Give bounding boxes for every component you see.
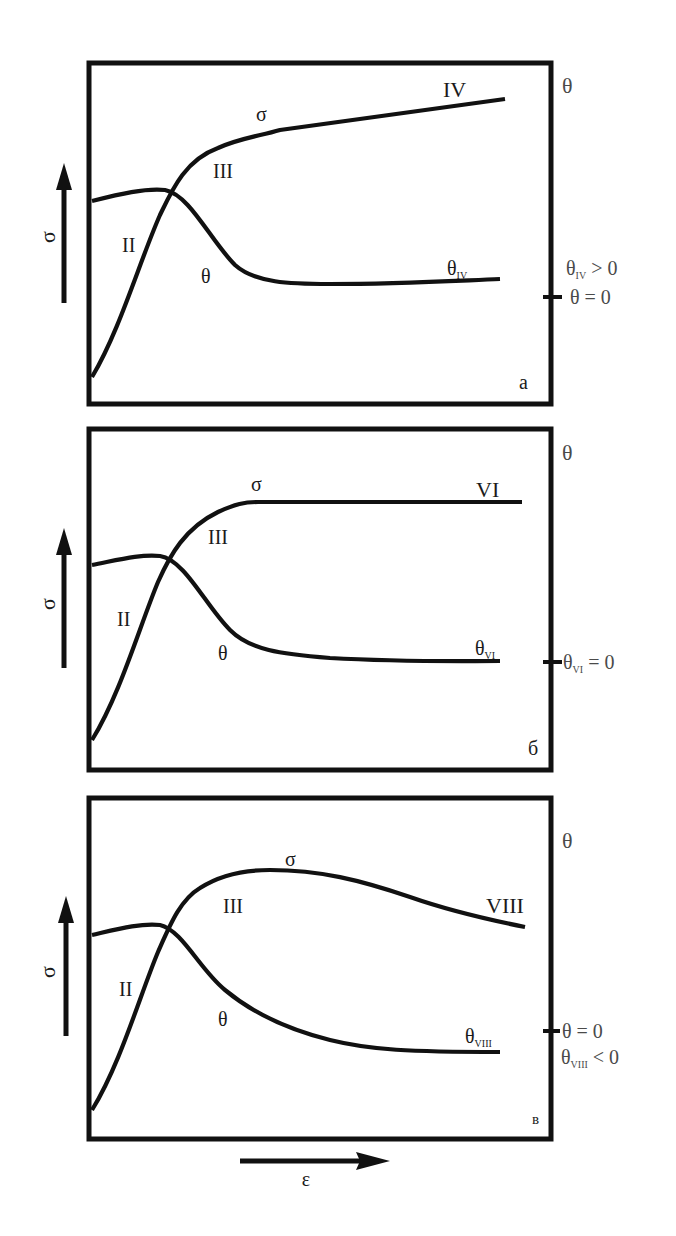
panel-b: σ θ II III σ VI θ θVI θVI = 0 б [35, 429, 614, 770]
theta-end-label: θVIII [465, 1025, 492, 1049]
epsilon-axis-label: ε [302, 1168, 310, 1190]
sigma-axis-label: σ [35, 598, 60, 610]
theta-curve [92, 556, 500, 662]
theta-zero-label: θ = 0 [562, 1020, 603, 1042]
stage-ii-label: II [119, 978, 132, 1000]
sigma-axis-arrow-icon [56, 528, 72, 668]
stage-end-label: VI [476, 477, 499, 502]
stage-end-label: VIII [486, 893, 524, 918]
theta-curve [92, 925, 500, 1052]
theta-end-label: θIV [447, 257, 468, 281]
theta-zero-label: θ = 0 [570, 286, 611, 308]
theta-condition-label: θVI = 0 [563, 651, 614, 675]
stage-iii-label: III [208, 526, 228, 548]
panel-a-frame [89, 63, 551, 404]
theta-axis-label: θ [562, 440, 573, 465]
sigma-curve [92, 99, 505, 377]
panel-label: а [519, 371, 528, 393]
panel-label: б [528, 737, 538, 759]
theta-end-label: θVI [475, 637, 495, 661]
theta-curve-label: θ [218, 642, 228, 664]
sigma-curve-label: σ [251, 473, 262, 495]
sigma-curve-label: σ [285, 848, 296, 870]
sigma-axis-arrow-icon [58, 896, 74, 1036]
theta-condition-label: θIV > 0 [566, 257, 617, 281]
panel-a: σ θ II III σ IV θ θIV θIV > 0 θ = 0 а [35, 63, 617, 404]
theta-axis-label: θ [562, 828, 573, 853]
sigma-axis-label: σ [35, 231, 60, 243]
sigma-curve [92, 502, 522, 740]
stage-ii-label: II [117, 608, 130, 630]
panel-label: в [532, 1111, 539, 1127]
panel-v-frame [89, 798, 551, 1139]
theta-condition-label: θVIII < 0 [561, 1046, 619, 1070]
stage-ii-label: II [122, 234, 135, 256]
stage-iii-label: III [223, 895, 243, 917]
stress-strain-figure: σ θ II III σ IV θ θIV θIV > 0 θ = 0 а σ … [0, 0, 676, 1236]
sigma-curve-label: σ [256, 103, 267, 125]
sigma-curve [92, 870, 525, 1110]
stage-iii-label: III [213, 160, 233, 182]
sigma-axis-label: σ [35, 966, 60, 978]
epsilon-axis-arrow-icon [240, 1152, 390, 1170]
theta-axis-label: θ [562, 73, 573, 98]
panel-v: σ θ II III σ VIII θ θVIII θ = 0 θVIII < … [35, 798, 619, 1139]
theta-curve-label: θ [201, 265, 211, 287]
stage-end-label: IV [443, 77, 466, 102]
theta-curve-label: θ [218, 1008, 228, 1030]
